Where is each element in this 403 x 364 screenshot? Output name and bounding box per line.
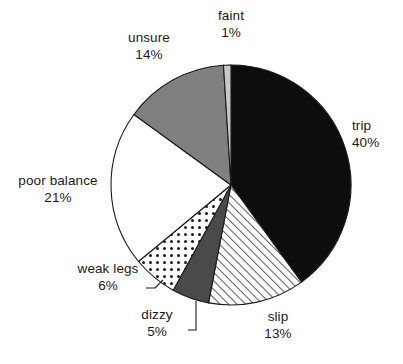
slice-label-slip-percent: 13% [249,326,307,343]
slice-label-trip: trip 40% [352,118,400,151]
slice-label-weak-legs-percent: 6% [56,278,160,295]
slice-label-weak-legs-name: weak legs [56,261,160,278]
slice-label-poor-balance-name: poor balance [2,173,114,190]
slice-label-slip: slip 13% [249,309,307,342]
slice-label-unsure-percent: 14% [96,47,202,64]
slice-label-trip-name: trip [352,118,400,135]
slice-label-weak-legs: weak legs 6% [56,261,160,294]
slice-label-unsure-name: unsure [96,30,202,47]
leader-line-dizzy [188,301,196,330]
pie-chart: faint 1% unsure 14% trip 40% poor balanc… [0,0,403,364]
slice-label-trip-percent: 40% [352,135,400,152]
slice-label-poor-balance-percent: 21% [2,190,114,207]
slice-label-dizzy-percent: 5% [126,324,188,341]
slice-label-unsure: unsure 14% [96,30,202,63]
slice-label-faint-name: faint [186,8,276,25]
slice-label-dizzy: dizzy 5% [126,307,188,340]
slice-label-poor-balance: poor balance 21% [2,173,114,206]
slice-label-slip-name: slip [249,309,307,326]
slice-label-dizzy-name: dizzy [126,307,188,324]
